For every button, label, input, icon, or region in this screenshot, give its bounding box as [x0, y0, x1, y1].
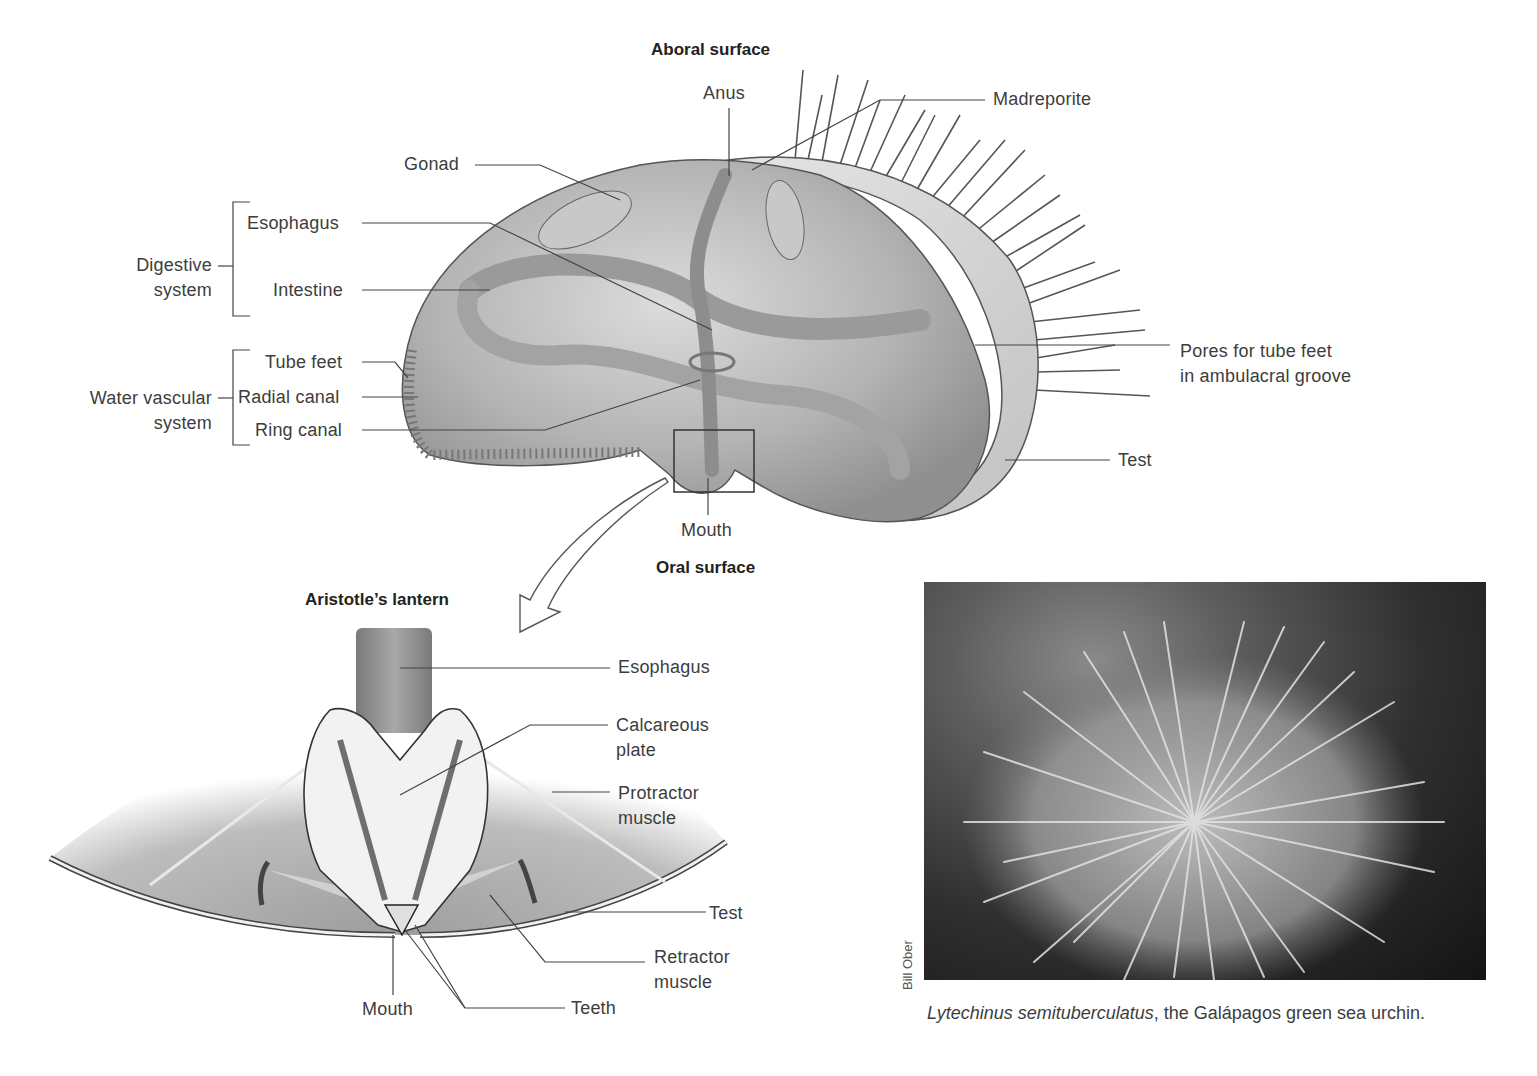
oral-surface-heading: Oral surface — [656, 558, 755, 578]
group-digestive-line1: Digestive — [110, 253, 212, 278]
label-test-top: Test — [1118, 448, 1152, 473]
label-retractor-line1: Retractor — [654, 945, 730, 970]
label-mouth-top: Mouth — [681, 518, 732, 543]
label-lantern-mouth: Mouth — [362, 997, 413, 1022]
photo-caption: Lytechinus semituberculatus, the Galápag… — [927, 1000, 1447, 1026]
group-digestive-line2: system — [110, 278, 212, 303]
caption-species-name: Lytechinus semituberculatus — [927, 1003, 1154, 1023]
label-ring-canal: Ring canal — [255, 418, 342, 443]
label-lantern-test: Test — [709, 901, 743, 926]
label-tube-feet: Tube feet — [265, 350, 342, 375]
group-water-vascular-line1: Water vascular — [60, 386, 212, 411]
photo-credit: Bill Ober — [900, 940, 915, 990]
label-retractor-line2: muscle — [654, 970, 712, 995]
group-water-vascular-line2: system — [60, 411, 212, 436]
zoom-arrow-icon — [520, 478, 668, 632]
label-protractor-line2: muscle — [618, 806, 676, 831]
label-gonad: Gonad — [404, 152, 459, 177]
label-anus: Anus — [703, 81, 745, 106]
label-lantern-esophagus: Esophagus — [618, 655, 710, 680]
label-madreporite: Madreporite — [993, 87, 1091, 112]
label-radial-canal: Radial canal — [238, 385, 339, 410]
label-intestine: Intestine — [273, 278, 343, 303]
lantern-esophagus — [356, 628, 432, 733]
caption-text: , the Galápagos green sea urchin. — [1154, 1003, 1425, 1023]
label-pores-line2: in ambulacral groove — [1180, 364, 1351, 389]
label-pores-line1: Pores for tube feet — [1180, 339, 1332, 364]
sea-urchin-photo — [924, 582, 1486, 980]
urchin-spines-photo — [924, 582, 1486, 980]
label-teeth: Teeth — [571, 996, 616, 1021]
aboral-surface-heading: Aboral surface — [651, 40, 770, 60]
label-calcareous-line2: plate — [616, 738, 656, 763]
label-calcareous-line1: Calcareous — [616, 713, 709, 738]
label-esophagus-top: Esophagus — [247, 211, 339, 236]
label-protractor-line1: Protractor — [618, 781, 699, 806]
urchin-cutaway — [218, 70, 1170, 632]
aristotles-lantern-heading: Aristotle’s lantern — [305, 590, 449, 610]
